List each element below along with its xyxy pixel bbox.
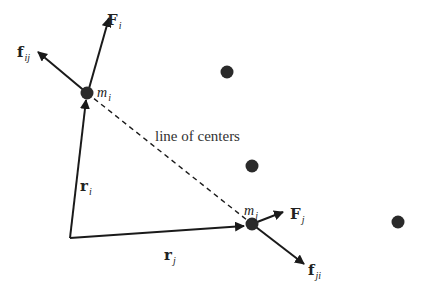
fji-arrow — [252, 224, 304, 264]
Fi-label: Fi — [107, 12, 121, 31]
Fj-label-base: F — [290, 205, 301, 223]
ri-arrow — [70, 100, 86, 238]
fji-label: fji — [308, 262, 321, 281]
fij-label: fij — [17, 44, 30, 63]
fij-label-sub: ij — [24, 52, 30, 63]
particle-other-1 — [221, 66, 234, 79]
rj-label-sub: j — [173, 255, 176, 266]
particle-other-2 — [246, 160, 259, 173]
rj-label-base: r — [164, 246, 172, 264]
Fi-arrow — [88, 18, 109, 92]
ri-label-base: r — [80, 177, 88, 195]
fij-label-base: f — [17, 43, 23, 61]
rj-arrow — [70, 226, 244, 238]
Fj-label: Fj — [290, 206, 304, 225]
Fj-label-sub: j — [302, 214, 305, 225]
rj-label: rj — [164, 247, 176, 266]
particle-other-3 — [392, 216, 405, 229]
mi-label: mi — [97, 84, 111, 103]
Fi-label-base: F — [107, 11, 118, 29]
mj-label: mj — [244, 202, 258, 221]
mj-label-base: m — [244, 203, 254, 218]
fij-arrow — [38, 52, 87, 93]
diagram-canvas — [0, 0, 425, 292]
mj-label-sub: j — [255, 210, 258, 221]
fji-label-base: f — [308, 261, 314, 279]
particle-mi — [81, 87, 94, 100]
line-of-centers — [87, 93, 252, 224]
mi-label-base: m — [97, 85, 107, 100]
ri-label-sub: i — [89, 186, 92, 197]
ri-label: ri — [80, 178, 92, 197]
mi-label-sub: i — [108, 92, 111, 103]
line-of-centers-label: line of centers — [155, 129, 240, 144]
fji-label-sub: ji — [315, 270, 321, 281]
Fi-label-sub: i — [119, 20, 122, 31]
